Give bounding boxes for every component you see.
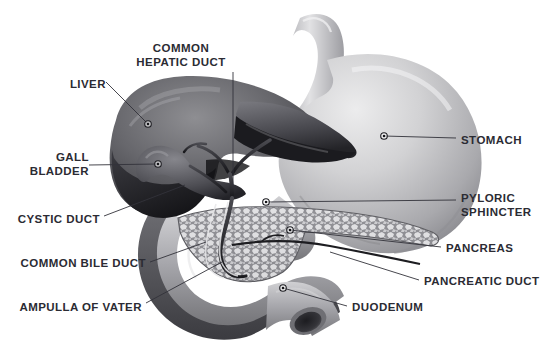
label-duodenum: DUODENUM xyxy=(352,301,423,315)
label-pancreas: PANCREAS xyxy=(446,242,513,256)
callout-marker-liver xyxy=(145,121,152,128)
callout-marker-gall-bladder xyxy=(155,161,162,168)
label-pancreatic-duct: PANCREATIC DUCT xyxy=(424,275,540,289)
label-pyloric-sphincter: PYLORIC SPHINCTER xyxy=(461,192,532,219)
label-liver: LIVER xyxy=(0,78,106,92)
label-stomach: STOMACH xyxy=(461,134,522,148)
label-common-hepatic-duct: COMMON HEPATIC DUCT xyxy=(121,42,241,69)
leader-line-pancreatic-duct xyxy=(330,252,419,280)
callout-marker-pyloric-sphincter xyxy=(263,199,270,206)
callout-marker-duodenum xyxy=(280,285,287,292)
label-ampulla-of-vater: AMPULLA OF VATER xyxy=(0,301,142,315)
callout-marker-pancreas xyxy=(287,227,294,234)
label-cystic-duct: CYSTIC DUCT xyxy=(0,213,100,227)
label-common-bile-duct: COMMON BILE DUCT xyxy=(0,257,146,271)
callout-marker-stomach xyxy=(381,133,388,140)
label-gall-bladder: GALL BLADDER xyxy=(0,151,89,178)
anatomy-diagram: LIVERCOMMON HEPATIC DUCTGALL BLADDERCYST… xyxy=(0,0,552,347)
